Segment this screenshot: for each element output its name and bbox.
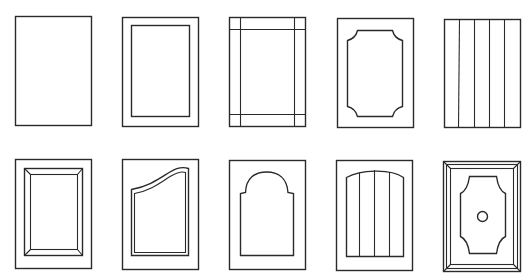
door-raised-bevel-panel [16, 160, 92, 269]
diagram-svg [0, 0, 532, 280]
door-shaped-corner-panel [338, 19, 414, 128]
door-arched-plank-panel [337, 161, 413, 271]
door-arch-top-panel [230, 161, 306, 270]
door-vertical-plank [445, 20, 521, 128]
door-curved-top-panel [123, 160, 199, 270]
door-slab [16, 17, 92, 126]
door-five-piece-frame [230, 18, 306, 127]
door-framed-shaped-medallion [444, 162, 521, 272]
door-shaker-recessed [123, 18, 199, 127]
cabinet-door-styles-diagram [0, 0, 532, 280]
